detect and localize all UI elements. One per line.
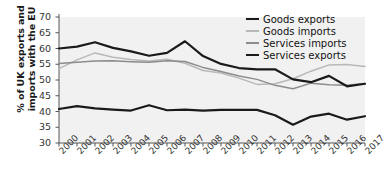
y-axis-tick-label: 40: [33, 107, 51, 117]
y-axis-tick-label: 60: [33, 44, 51, 54]
legend-label: Services imports: [263, 38, 347, 49]
chart-legend: Goods exportsGoods importsServices impor…: [246, 13, 347, 61]
legend-item: Services exports: [246, 49, 347, 61]
y-axis-tick-label: 50: [33, 75, 51, 85]
y-axis-tick-label: 30: [33, 138, 51, 148]
legend-label: Services exports: [263, 50, 346, 61]
legend-swatch-icon: [246, 30, 259, 32]
legend-swatch-icon: [246, 18, 259, 20]
legend-item: Goods exports: [246, 13, 347, 25]
y-axis-title-line-1: % of UK exports and: [15, 5, 26, 112]
legend-item: Services imports: [246, 37, 347, 49]
y-axis-tick-label: 55: [33, 59, 51, 69]
legend-swatch-icon: [246, 54, 259, 56]
legend-swatch-icon: [246, 42, 259, 44]
y-axis-tick-label: 35: [33, 122, 51, 132]
legend-label: Goods imports: [263, 26, 336, 37]
y-axis-tick-label: 45: [33, 91, 51, 101]
y-axis-tick-label: 70: [33, 12, 51, 22]
legend-item: Goods imports: [246, 25, 347, 37]
y-axis-tick-label: 65: [33, 28, 51, 38]
legend-label: Goods exports: [263, 14, 335, 25]
